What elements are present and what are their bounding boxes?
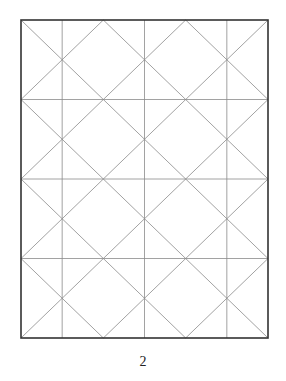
lattice-diagram [0,0,286,381]
grid-lines [21,20,268,338]
page-number: 2 [0,354,286,370]
